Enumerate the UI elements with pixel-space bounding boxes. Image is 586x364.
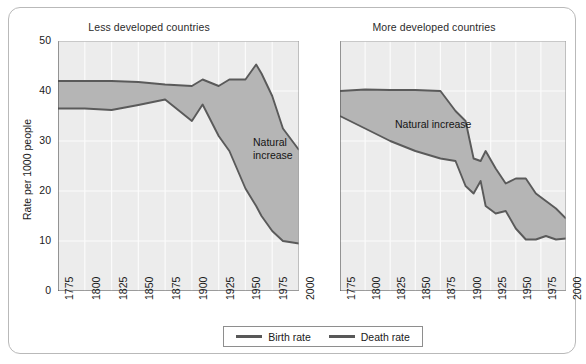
legend-item-birth-rate: Birth rate: [236, 331, 311, 343]
x-tick-label: 1775: [63, 277, 75, 300]
x-tick-label: 1850: [143, 277, 155, 300]
x-tick-label: 1800: [90, 277, 102, 300]
legend-label-death-rate: Death rate: [361, 331, 410, 343]
x-tick-label: 1800: [370, 277, 382, 300]
x-tick-label: 1925: [496, 277, 508, 300]
x-tick-label: 1950: [521, 277, 533, 300]
plot-background: [340, 41, 566, 291]
y-tick-label: 10: [18, 234, 51, 246]
x-tick-label: 1975: [546, 277, 558, 300]
x-tick-label: 1875: [445, 277, 457, 300]
x-tick-label: 2000: [571, 277, 583, 300]
y-tick-label: 20: [18, 184, 51, 196]
x-tick-label: 1775: [345, 277, 357, 300]
y-tick-label: 50: [18, 34, 51, 46]
chart-legend: Birth rate Death rate: [223, 326, 423, 347]
x-tick-label: 1850: [420, 277, 432, 300]
x-tick-label: 1925: [224, 277, 236, 300]
x-tick-label: 1825: [395, 277, 407, 300]
x-tick-label: 1950: [250, 277, 262, 300]
x-tick-label: 1825: [117, 277, 129, 300]
plot-more-developed: [340, 41, 566, 291]
x-tick-label: 1875: [170, 277, 182, 300]
birth-rate-line-swatch-icon: [236, 335, 262, 338]
death-rate-line-swatch-icon: [329, 335, 355, 338]
x-tick-label: 2000: [304, 277, 316, 300]
x-tick-label: 1975: [277, 277, 289, 300]
x-tick-label: 1900: [471, 277, 483, 300]
legend-label-birth-rate: Birth rate: [268, 331, 311, 343]
plot-less-developed: [58, 41, 299, 291]
y-tick-label: 30: [18, 134, 51, 146]
chart-figure-frame: Rate per 1000 people Less developed coun…: [8, 7, 576, 354]
y-tick-label: 0: [18, 284, 51, 296]
natural-increase-annotation: Natural increase: [253, 136, 313, 162]
y-tick-label: 40: [18, 84, 51, 96]
panel-title-left: Less developed countries: [19, 21, 279, 33]
x-tick-label: 1900: [197, 277, 209, 300]
panel-title-right: More developed countries: [309, 21, 559, 33]
legend-item-death-rate: Death rate: [329, 331, 410, 343]
natural-increase-annotation: Natural increase: [395, 118, 471, 131]
